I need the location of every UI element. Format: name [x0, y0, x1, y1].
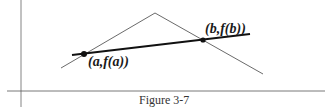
point-b-marker — [200, 37, 205, 42]
point-a-label: (a,f(a)) — [88, 55, 129, 69]
figure-3-7: (a,f(a)) (b,f(b)) Figure 3-7 — [0, 0, 331, 107]
figure-caption: Figure 3-7 — [139, 94, 189, 106]
point-b-label: (b,f(b)) — [205, 22, 246, 36]
diagram-canvas — [0, 0, 331, 107]
point-a-marker — [81, 51, 87, 57]
